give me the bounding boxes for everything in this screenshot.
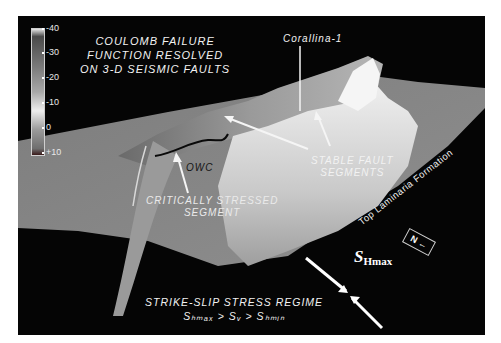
stable-line: STABLE FAULT <box>311 155 394 167</box>
critical-segment-label: CRITICALLY STRESSED SEGMENT <box>146 195 278 219</box>
figure-panel: -40 -30 -20 -10 0 +10 COULOMB FAILURE FU… <box>18 16 485 335</box>
title-line: ON 3-D SEISMIC FAULTS <box>80 62 230 76</box>
critical-line: SEGMENT <box>146 207 278 219</box>
shmax-label: SHmax <box>354 247 392 267</box>
north-label: N <box>409 233 419 245</box>
critical-line: CRITICALLY STRESSED <box>146 195 278 207</box>
stable-segments-label: STABLE FAULT SEGMENTS <box>311 155 394 179</box>
owc-label: OWC <box>186 162 213 173</box>
regime-inequality: Sₕₘₐₓ > Sᵥ > Sₕₘᵢₙ <box>145 309 323 323</box>
regime-line: STRIKE-SLIP STRESS REGIME <box>145 295 323 309</box>
title-line: FUNCTION RESOLVED <box>80 48 230 62</box>
well-label: Corallina-1 <box>283 33 342 44</box>
colorbar <box>31 28 45 156</box>
colorbar-tick: -20 <box>46 72 59 82</box>
colorbar-tick: 0 <box>46 122 51 132</box>
shmax-subscript: Hmax <box>363 255 392 267</box>
colorbar-tick: -40 <box>46 23 59 33</box>
figure-title: COULOMB FAILURE FUNCTION RESOLVED ON 3-D… <box>80 34 230 76</box>
colorbar-tick: +10 <box>46 147 61 157</box>
stable-line: SEGMENTS <box>311 167 394 179</box>
colorbar-tick: -10 <box>46 97 59 107</box>
title-line: COULOMB FAILURE <box>80 34 230 48</box>
colorbar-tick: -30 <box>46 47 59 57</box>
stress-regime-label: STRIKE-SLIP STRESS REGIME Sₕₘₐₓ > Sᵥ > S… <box>145 295 323 323</box>
